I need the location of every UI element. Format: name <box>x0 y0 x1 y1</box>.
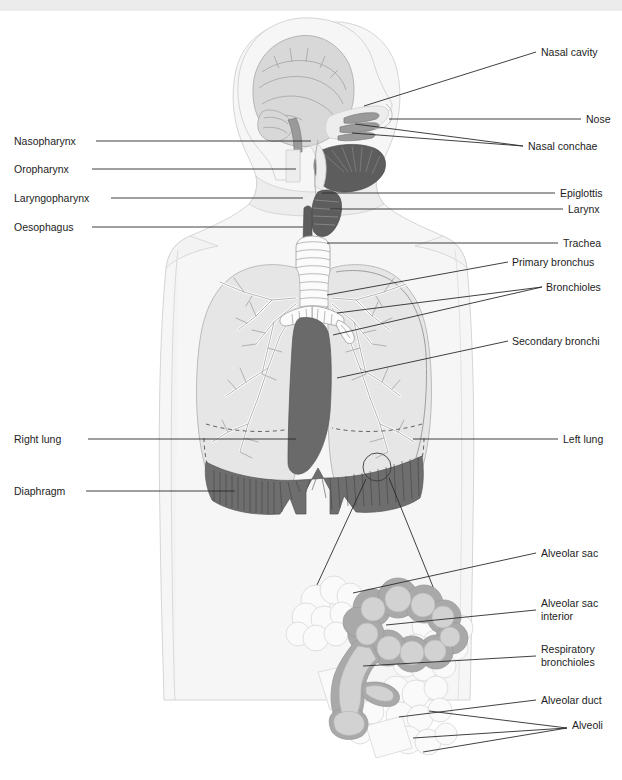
label-primary-bronchus: Primary bronchus <box>512 256 594 268</box>
label-nose: Nose <box>586 113 611 125</box>
label-nasopharynx: Nasopharynx <box>14 135 77 147</box>
label-bronchioles: Bronchioles <box>546 281 601 293</box>
label-diaphragm: Diaphragm <box>14 485 66 497</box>
label-alveoli: Alveoli <box>572 719 603 731</box>
label-alveolar-sac-int-1: Alveolar sac <box>541 597 598 609</box>
label-alveolar-sac: Alveolar sac <box>541 547 598 559</box>
label-oropharynx: Oropharynx <box>14 163 70 175</box>
label-trachea: Trachea <box>563 237 601 249</box>
label-larynx: Larynx <box>568 203 600 215</box>
label-nasal-conchae: Nasal conchae <box>528 140 598 152</box>
diagram-canvas: NasopharynxOropharynxLaryngopharynxOesop… <box>0 0 622 780</box>
label-left-lung: Left lung <box>563 433 603 445</box>
label-laryngopharynx: Laryngopharynx <box>14 192 90 204</box>
label-secondary-bronchi: Secondary bronchi <box>512 335 600 347</box>
label-alveolar-duct: Alveolar duct <box>541 694 602 706</box>
label-epiglottis: Epiglottis <box>560 187 603 199</box>
label-oesophagus: Oesophagus <box>14 221 74 233</box>
label-alveolar-sac-int-2: interior <box>541 610 574 622</box>
label-nasal-cavity: Nasal cavity <box>541 46 598 58</box>
top-band <box>0 0 622 11</box>
respiratory-system-figure: NasopharynxOropharynxLaryngopharynxOesop… <box>0 0 622 780</box>
label-respiratory-1: Respiratory <box>541 643 595 655</box>
label-right-lung: Right lung <box>14 433 61 445</box>
label-respiratory-2: bronchioles <box>541 656 595 668</box>
